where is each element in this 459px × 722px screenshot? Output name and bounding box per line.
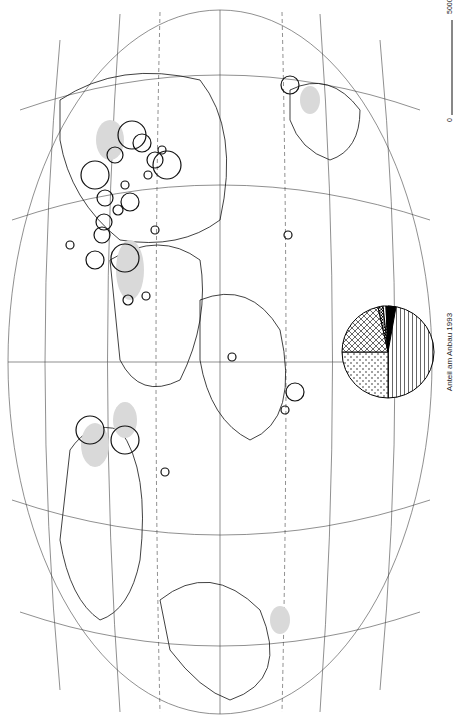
svg-text:5000 km: 5000 km — [446, 0, 453, 14]
svg-text:0: 0 — [446, 118, 453, 122]
svg-text:Anteil am Anbau 1993: Anteil am Anbau 1993 — [445, 312, 454, 391]
cultivation-areas — [81, 86, 320, 634]
share-pie-chart: Anteil am Anbau 1993 — [342, 306, 454, 398]
coastlines — [60, 73, 360, 700]
scale-bar: 0 5000 km — [446, 0, 453, 122]
world-wheat-map: 0 5000 km Anteil am Anbau 1993 — [0, 0, 459, 722]
